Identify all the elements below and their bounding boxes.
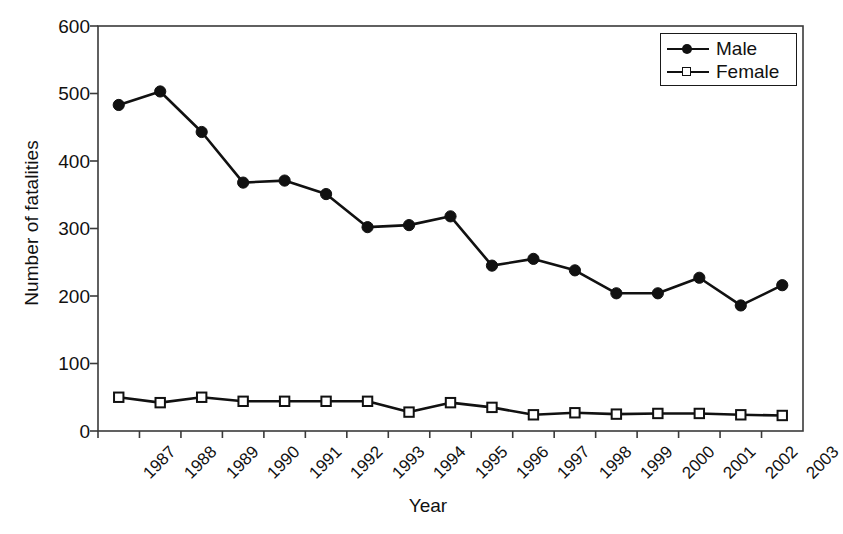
x-axis-tick-label: 1997 xyxy=(555,443,594,482)
legend-marker-filled-circle-icon xyxy=(666,40,710,58)
x-axis-title: Year xyxy=(0,495,820,517)
x-axis-tick-label: 1992 xyxy=(347,443,386,482)
legend-label-female: Female xyxy=(710,62,779,81)
x-axis-tick-label: 1996 xyxy=(513,443,552,482)
legend-item-male: Male xyxy=(666,37,791,60)
x-axis-tick-label: 1994 xyxy=(430,443,469,482)
x-axis-tick-label: 1987 xyxy=(140,443,179,482)
legend-item-female: Female xyxy=(666,60,791,83)
x-axis-tick-label: 1995 xyxy=(472,443,511,482)
x-axis-tick-label: 2000 xyxy=(679,443,718,482)
legend-marker-open-square-icon xyxy=(666,63,710,81)
x-axis-tick-label: 1999 xyxy=(637,443,676,482)
chart-legend: Male Female xyxy=(660,33,797,86)
x-axis-tick-label: 1993 xyxy=(389,443,428,482)
x-axis-tick-label: 1991 xyxy=(306,443,345,482)
x-axis-tick-label: 1989 xyxy=(223,443,262,482)
x-axis-tick-label: 1990 xyxy=(264,443,303,482)
x-axis-tick-label: 2001 xyxy=(720,443,759,482)
x-axis-tick-label: 2003 xyxy=(803,443,842,482)
legend-label-male: Male xyxy=(710,39,757,58)
x-axis-title-text: Year xyxy=(409,495,447,516)
x-axis-tick-label: 1988 xyxy=(181,443,220,482)
x-axis-tick-label: 2002 xyxy=(762,443,801,482)
x-axis-tick-label: 1998 xyxy=(596,443,635,482)
